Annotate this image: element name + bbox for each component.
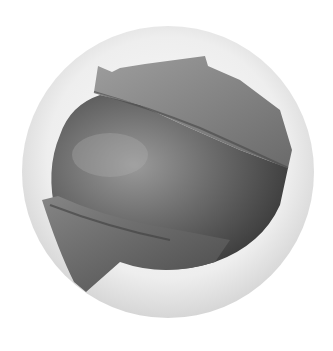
photo — [0, 0, 333, 351]
photo-illustration — [0, 0, 333, 351]
